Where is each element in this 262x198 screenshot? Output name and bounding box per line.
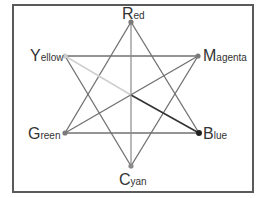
node-cyan — [128, 163, 133, 168]
node-green — [62, 130, 67, 135]
edge-green-red — [65, 22, 131, 133]
node-magenta — [195, 53, 200, 58]
edge-red-blue — [131, 22, 199, 133]
node-blue — [196, 130, 202, 136]
hexagram-diagram — [0, 0, 262, 198]
edge-magenta-cyan — [131, 56, 198, 166]
label-cyan: Cyan — [119, 172, 147, 188]
label-green: Green — [28, 126, 60, 142]
label-yellow: Yellow — [30, 48, 63, 64]
label-blue: Blue — [203, 126, 227, 142]
label-red: Red — [122, 6, 145, 22]
edge-cyan-yellow — [65, 56, 131, 166]
label-magenta: Magenta — [203, 48, 247, 64]
spoke-center-yellow — [65, 56, 131, 95]
spoke-center-blue — [131, 95, 199, 133]
